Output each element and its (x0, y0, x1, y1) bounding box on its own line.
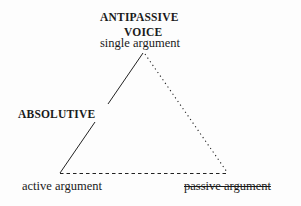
edge-label-absolutive: ABSOLUTIVE (18, 109, 95, 121)
edge-dotted-right (145, 54, 227, 172)
edge-absolutive-lower (60, 122, 95, 173)
vertex-label-passive-argument: passive argument (184, 180, 271, 193)
edge-absolutive-upper (108, 53, 143, 104)
vertex-label-active-argument: active argument (22, 180, 102, 193)
apex-title-antipassive: ANTIPASSIVE (100, 12, 179, 24)
apex-label-single-argument: single argument (100, 37, 180, 50)
